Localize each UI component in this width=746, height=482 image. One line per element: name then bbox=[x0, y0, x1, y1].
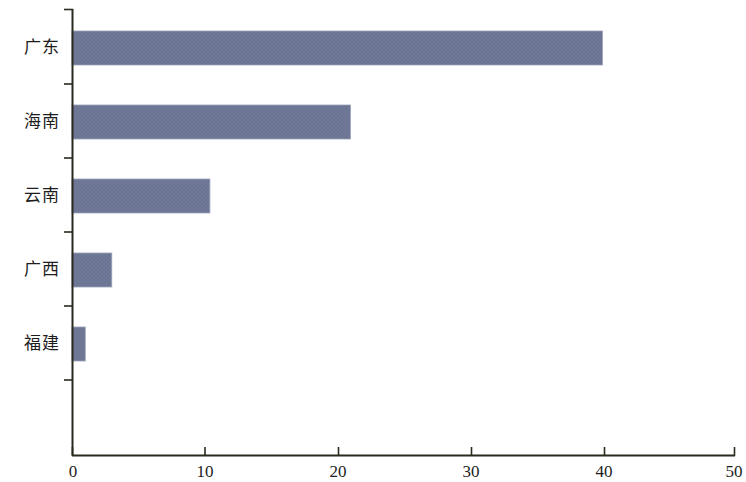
bar-guangxi bbox=[72, 253, 112, 287]
bar-guangdong bbox=[72, 31, 602, 65]
y-axis-label-fujian: 福建 bbox=[2, 335, 60, 352]
bar-chart: 广东 海南 云南 广西 福建 0 10 20 30 40 50 bbox=[0, 0, 746, 482]
x-axis-tick-label-0: 0 bbox=[58, 463, 88, 480]
chart-background bbox=[0, 0, 746, 482]
bar-yunnan bbox=[72, 179, 210, 213]
bar-hainan bbox=[72, 105, 350, 139]
y-axis-label-guangxi: 广西 bbox=[2, 261, 60, 278]
y-axis-label-yunnan: 云南 bbox=[2, 187, 60, 204]
x-axis-tick-label-10: 10 bbox=[190, 463, 220, 480]
x-axis-tick-label-20: 20 bbox=[323, 463, 353, 480]
bar-fujian bbox=[72, 327, 85, 361]
y-axis-label-hainan: 海南 bbox=[2, 113, 60, 130]
y-axis-label-guangdong: 广东 bbox=[2, 39, 60, 56]
x-axis-tick-label-40: 40 bbox=[589, 463, 619, 480]
chart-plot-area bbox=[0, 0, 746, 482]
x-axis-tick-label-50: 50 bbox=[719, 463, 746, 480]
x-axis-tick-label-30: 30 bbox=[456, 463, 486, 480]
